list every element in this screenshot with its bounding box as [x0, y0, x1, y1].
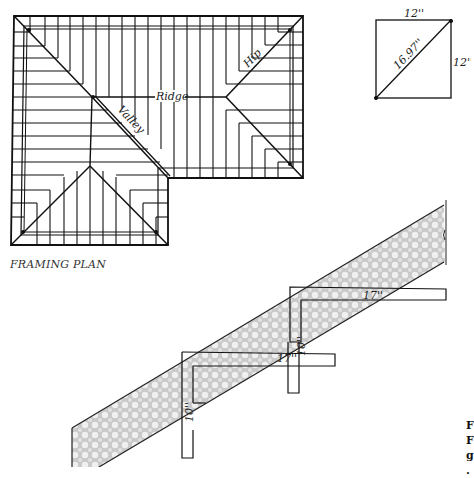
- caption-line-1: F: [466, 418, 474, 433]
- square-diagonal-label: 16.97'': [391, 36, 426, 72]
- stringer-diagram: [72, 200, 446, 467]
- lower-run-label: 17'': [277, 352, 297, 365]
- framing-plan: [11, 16, 303, 245]
- caption-line-4: .: [466, 463, 474, 478]
- common-rafters-top: [30, 16, 278, 97]
- common-rafters-right-lower: [122, 97, 278, 178]
- lower-rise-label: 10'': [183, 402, 196, 422]
- plan-outline: [11, 16, 303, 245]
- ridge-label: Ridge: [155, 90, 189, 103]
- caption-line-2: F: [466, 433, 474, 448]
- hip-label: Hip: [240, 47, 264, 71]
- caption-line-3: g: [466, 448, 474, 463]
- caption-fragment: F F g .: [466, 418, 474, 478]
- square-diagram: [374, 19, 452, 99]
- ridge-line-vertical: [90, 97, 92, 166]
- hip-jacks-right: [226, 32, 303, 162]
- upper-run-label: 17'': [363, 289, 383, 302]
- square-diagonal: [376, 20, 451, 98]
- framing-plan-title: FRAMING PLAN: [10, 258, 106, 271]
- square-side-label: 12'': [453, 56, 471, 69]
- hip-jacks-bottom: [37, 166, 156, 245]
- valley-label: Valley: [115, 103, 148, 137]
- square-top-label: 12'': [404, 7, 424, 20]
